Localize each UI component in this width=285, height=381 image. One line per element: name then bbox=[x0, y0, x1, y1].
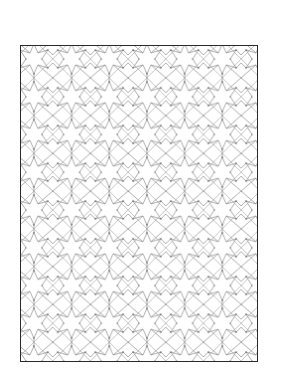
geometric-star-pattern bbox=[21, 46, 257, 361]
pattern-fill bbox=[21, 46, 257, 361]
pattern-frame bbox=[20, 45, 258, 362]
